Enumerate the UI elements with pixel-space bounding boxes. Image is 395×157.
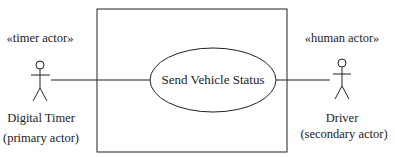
actor-left-stereotype: «timer actor» xyxy=(0,31,80,46)
actor-icon-left xyxy=(31,61,50,101)
actor-left-name: Digital Timer xyxy=(0,111,82,126)
actor-right-stereotype: «human actor» xyxy=(300,31,384,46)
use-case-label: Send Vehicle Status xyxy=(150,72,276,88)
actor-right-name: Driver xyxy=(300,111,384,126)
actor-icon-right xyxy=(333,59,351,99)
actor-left-role: (primary actor) xyxy=(0,131,82,146)
actor-right-role: (secondary actor) xyxy=(296,127,392,142)
